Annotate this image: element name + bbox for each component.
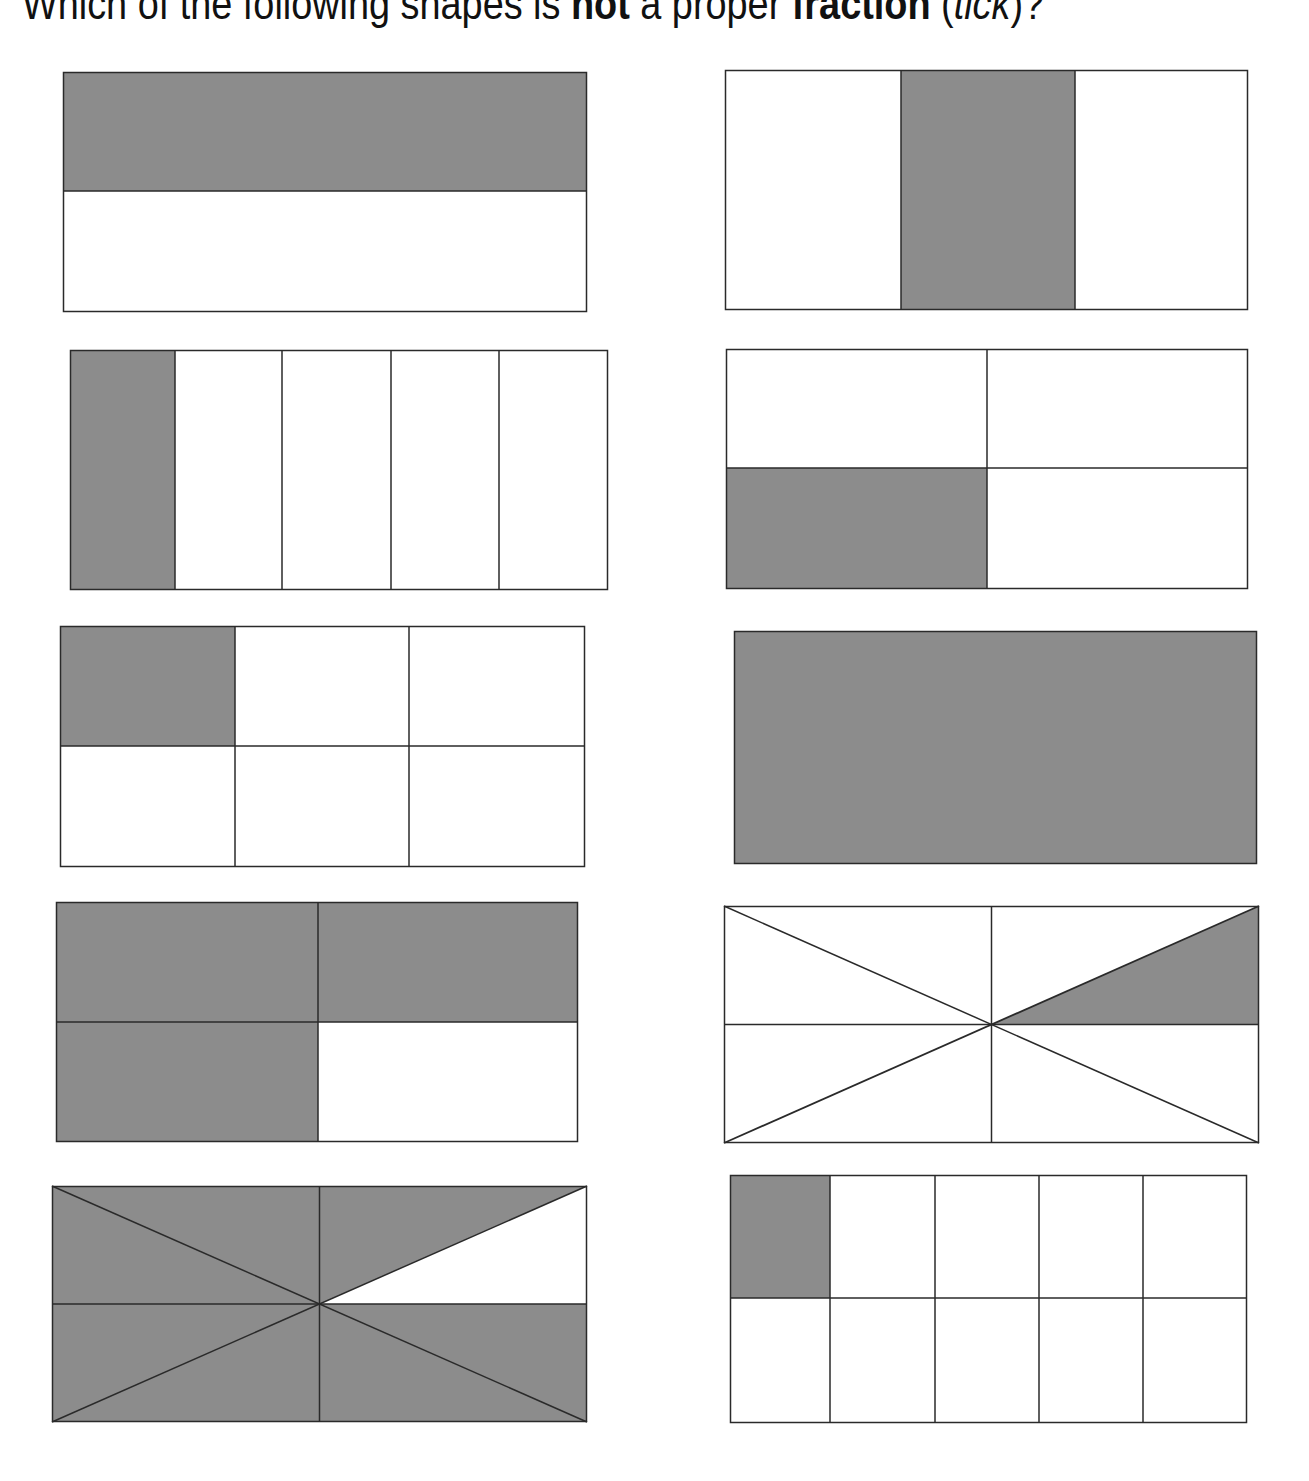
shape-6-whole[interactable]: [734, 631, 1257, 864]
shape-1-one-half[interactable]: [63, 72, 587, 312]
question-emphasis-not: not: [571, 0, 630, 28]
shape-8-one-eighth[interactable]: [724, 906, 1259, 1143]
question-text-2: a proper: [630, 0, 792, 28]
question-text-4: )?: [1010, 0, 1044, 28]
shape-4-one-quarter[interactable]: [726, 349, 1248, 589]
shape-7-three-quarters[interactable]: [56, 902, 578, 1142]
question-title: Which of the following shapes is not a p…: [22, 0, 1044, 30]
question-text-1: Which of the following shapes is: [22, 0, 571, 28]
shape-10-one-tenth[interactable]: [730, 1175, 1247, 1423]
question-emphasis-fraction: fraction: [792, 0, 931, 28]
shape-2-one-third[interactable]: [725, 70, 1248, 310]
question-text-3: (: [931, 0, 954, 28]
question-instruction-tick: tick: [954, 0, 1011, 28]
shape-9-seven-eighths[interactable]: [52, 1186, 587, 1422]
shape-3-one-fifth[interactable]: [70, 350, 608, 590]
shape-5-one-sixth[interactable]: [60, 626, 585, 867]
